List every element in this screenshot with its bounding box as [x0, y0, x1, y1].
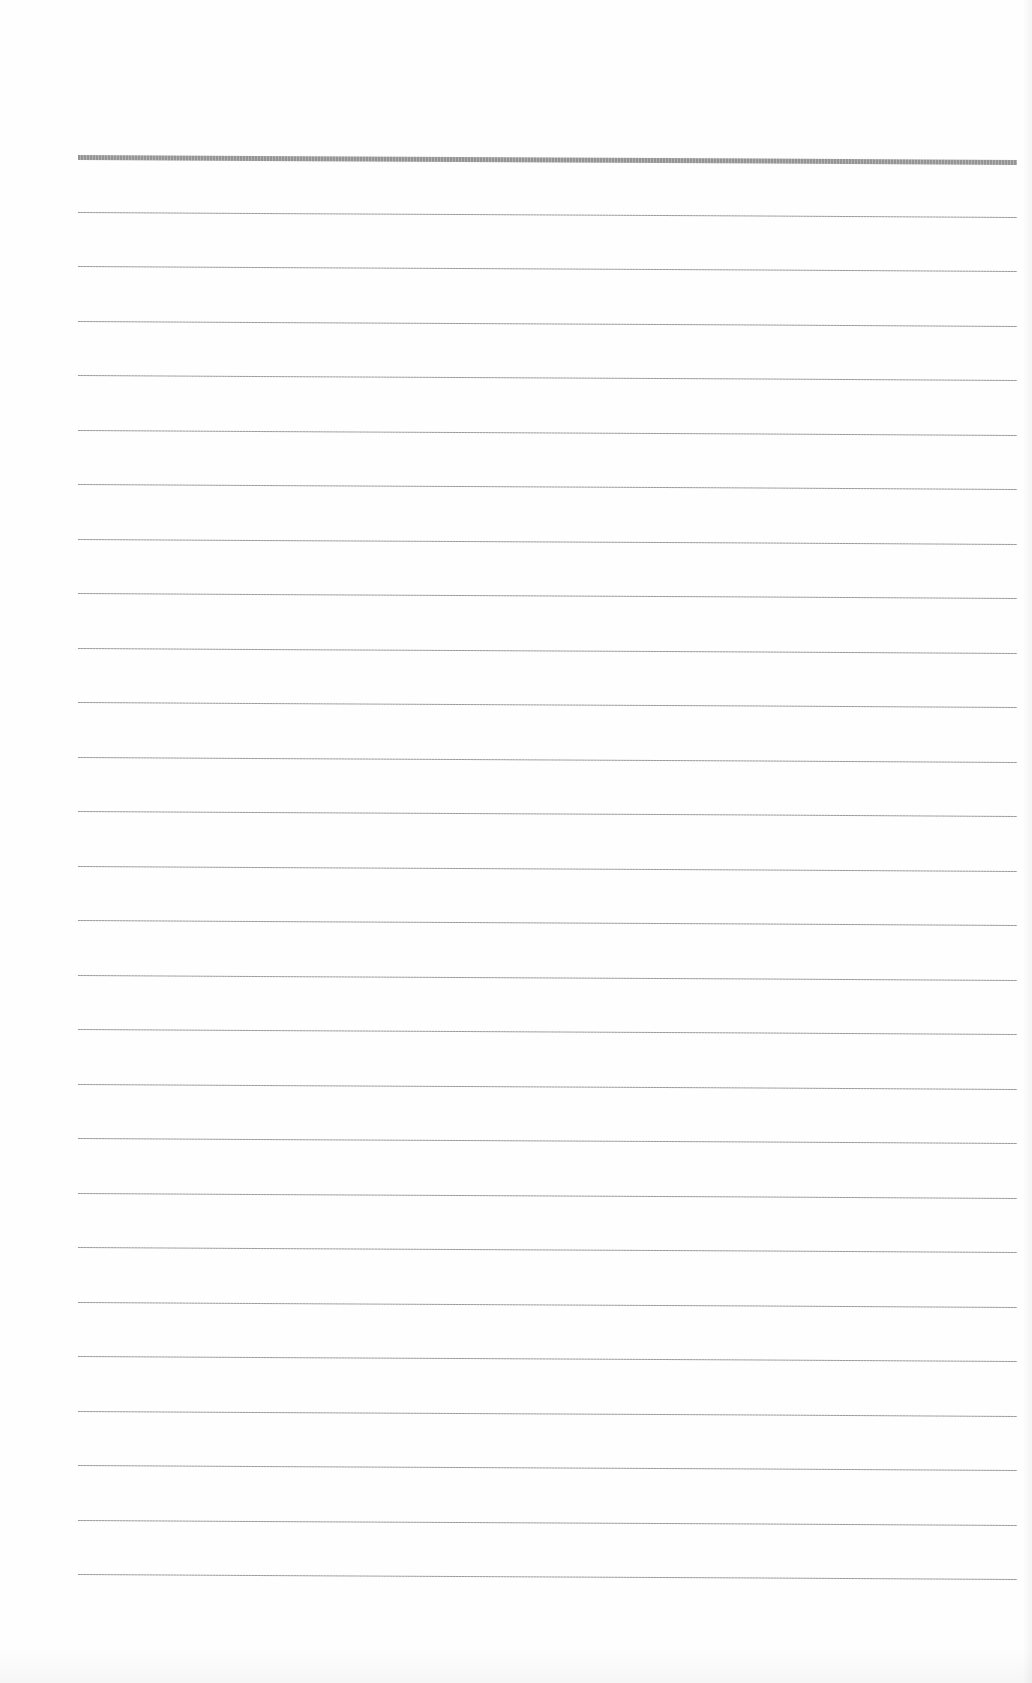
ruled-line [78, 1302, 1017, 1308]
ruled-line [78, 484, 1017, 490]
ruled-line [78, 212, 1017, 218]
ruled-line [78, 1411, 1017, 1417]
lined-paper-page [0, 0, 1032, 1683]
ruled-line [78, 430, 1017, 436]
ruled-line [78, 593, 1017, 599]
ruled-line [78, 1465, 1017, 1471]
header-rule-line [78, 155, 1017, 165]
ruled-line [78, 1084, 1017, 1090]
ruled-line [78, 1356, 1017, 1362]
page-right-edge-shadow [1022, 0, 1032, 1683]
page-bottom-edge-shadow [0, 1648, 1032, 1683]
ruled-line [78, 757, 1017, 763]
ruled-line [78, 539, 1017, 545]
ruled-line [78, 920, 1017, 926]
ruled-line [78, 1574, 1017, 1580]
ruled-line [78, 375, 1017, 381]
ruled-line [78, 321, 1017, 327]
ruled-line [78, 866, 1017, 872]
ruled-line [78, 811, 1017, 817]
ruled-line [78, 702, 1017, 708]
ruled-line [78, 1520, 1017, 1526]
ruled-line [78, 975, 1017, 981]
ruled-line [78, 648, 1017, 654]
ruled-line [78, 1029, 1017, 1035]
ruled-line [78, 266, 1017, 272]
ruled-line [78, 1193, 1017, 1199]
ruled-line [78, 1247, 1017, 1253]
ruled-line [78, 1138, 1017, 1144]
